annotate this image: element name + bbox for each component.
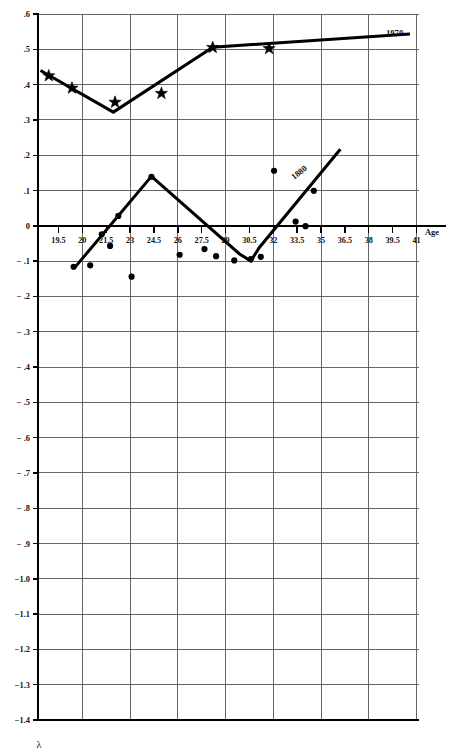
data-point-dot-1880 (177, 252, 183, 258)
x-tick-label: 21.5 (99, 236, 113, 245)
y-tick-label: .5 (24, 45, 30, 54)
y-tick-label: −1.1 (15, 610, 30, 619)
y-tick-label: .4 (24, 81, 31, 90)
data-point-star-1970 (155, 87, 167, 99)
x-tick-label: 41 (412, 236, 420, 245)
x-tick-label: 36.5 (338, 236, 352, 245)
data-point-dot-1880 (248, 256, 254, 262)
data-point-dot-1880 (201, 246, 207, 252)
data-point-dot-1880 (213, 253, 219, 259)
y-tick-label: .1 (24, 187, 30, 196)
y-tick-label: − .3 (17, 328, 30, 337)
x-tick-label: 38 (365, 236, 373, 245)
chart-container: 19.52021.52324.52627.52930.53233.53536.5… (0, 0, 458, 751)
data-point-dot-1880 (302, 223, 308, 229)
y-tick-label: − .9 (17, 540, 30, 549)
y-tick-label: .2 (24, 151, 30, 160)
x-tick-label: 26 (174, 236, 182, 245)
data-point-dot-1880 (292, 218, 298, 224)
data-point-dot-1880 (311, 188, 317, 194)
y-tick-label: 0 (26, 222, 30, 231)
x-tick-label: 39.5 (385, 236, 399, 245)
x-tick-label: 32 (269, 236, 277, 245)
data-point-dot-1880 (271, 168, 277, 174)
data-point-dot-1880 (148, 174, 154, 180)
data-point-star-1970 (109, 96, 121, 108)
data-point-dot-1880 (71, 264, 77, 270)
series-label-1880: 1880 (289, 163, 309, 181)
y-tick-label: .3 (24, 116, 30, 125)
y-tick-label: −1.0 (15, 575, 30, 584)
x-tick-label: 23 (126, 236, 134, 245)
y-tick-label: − .2 (17, 292, 30, 301)
x-axis-title: Age (425, 228, 439, 237)
y-tick-label: −1.4 (15, 716, 31, 725)
x-tick-label: 35 (317, 236, 325, 245)
x-tick-label: 30.5 (242, 236, 256, 245)
y-tick-label: .6 (24, 10, 30, 19)
series-label-1970: 1970 (386, 28, 403, 38)
x-tick-label: 27.5 (195, 236, 209, 245)
y-tick-label: −1.3 (15, 681, 30, 690)
chart-gridlines (38, 14, 419, 720)
y-axis-title: λ (37, 739, 42, 750)
x-tick-label: 20 (78, 236, 86, 245)
x-tick-label: 33.5 (290, 236, 304, 245)
x-tick-label: 29 (221, 236, 229, 245)
x-tick-label: 19.5 (51, 236, 65, 245)
y-tick-label: − .6 (17, 434, 30, 443)
y-axis-tick-labels: .6.5.4.3.2.10− .1− .2− .3− .4− .5− .6− .… (15, 10, 31, 725)
y-tick-label: − .7 (17, 469, 30, 478)
y-tick-label: −1.2 (15, 645, 30, 654)
y-tick-label: − .8 (17, 504, 30, 513)
data-point-dot-1880 (231, 257, 237, 263)
y-tick-label: − .1 (17, 257, 30, 266)
data-point-dot-1880 (258, 254, 264, 260)
y-tick-label: − .4 (17, 363, 31, 372)
y-tick-label: − .5 (17, 398, 30, 407)
data-point-dot-1880 (87, 262, 93, 268)
data-point-dot-1880 (115, 213, 121, 219)
data-point-dot-1880 (128, 274, 134, 280)
scatter-chart: 19.52021.52324.52627.52930.53233.53536.5… (0, 0, 458, 751)
x-axis-tick-labels: 19.52021.52324.52627.52930.53233.53536.5… (51, 236, 420, 245)
x-tick-label: 24.5 (147, 236, 161, 245)
